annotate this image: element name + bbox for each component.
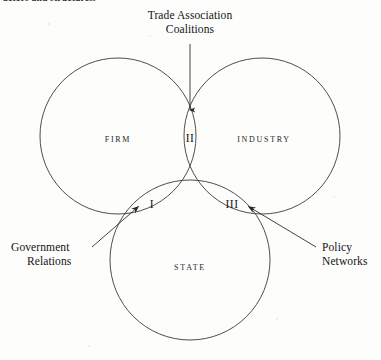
- callout-line-1: Trade Association: [148, 9, 233, 21]
- circle-label-industry: INDUSTRY: [237, 135, 291, 144]
- callout-line-1: Government: [11, 241, 69, 253]
- circle-state: [110, 180, 270, 340]
- leader-line-policy-networks: [249, 207, 317, 248]
- leader-line-government-relations: [92, 207, 139, 248]
- region-numeral-i: I: [150, 198, 154, 212]
- circle-label-state: STATE: [174, 263, 206, 272]
- circle-label-firm: FIRM: [105, 135, 131, 144]
- callout-trade-association-coalitions: Trade Association Coalitions: [148, 9, 233, 36]
- region-numeral-iii: III: [226, 198, 239, 212]
- callout-government-relations: Government Relations: [11, 241, 71, 268]
- venn-diagram-canvas: [0, 0, 381, 360]
- callout-line-2: Networks: [322, 255, 368, 269]
- callout-line-2: Relations: [27, 255, 71, 269]
- callout-policy-networks: Policy Networks: [322, 241, 368, 268]
- region-numeral-ii: II: [186, 132, 195, 146]
- callout-line-2: Coalitions: [148, 23, 233, 37]
- callout-line-1: Policy: [322, 241, 352, 253]
- diagram-page: actors and structures. FIRM INDUSTRY STA…: [0, 0, 381, 360]
